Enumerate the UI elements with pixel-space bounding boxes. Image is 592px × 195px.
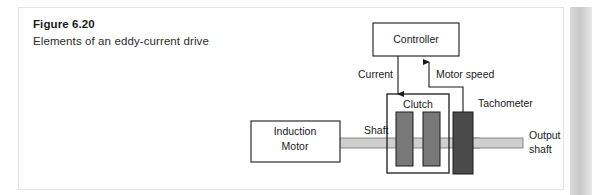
current-label: Current: [358, 68, 393, 80]
page-edge-shadow: [570, 0, 592, 195]
output-shaft-bar: [467, 138, 523, 148]
clutch-label: Clutch: [403, 98, 433, 110]
induction-motor-label-line2: Motor: [282, 140, 309, 152]
controller-label: Controller: [393, 33, 439, 45]
tachometer-label: Tachometer: [478, 97, 533, 109]
output-shaft-label-line2: shaft: [529, 143, 552, 155]
input-shaft-label: Shaft: [364, 124, 389, 136]
page-edge-top-margin: [0, 0, 592, 7]
clutch-plate-left: [396, 112, 413, 166]
figure-card: Figure 6.20 Elements of an eddy-current …: [18, 7, 564, 190]
output-shaft-label-line1: Output: [529, 129, 561, 141]
clutch-plate-right: [423, 112, 440, 166]
induction-motor-label-line1: Induction: [274, 125, 317, 137]
motor-speed-label: Motor speed: [436, 68, 495, 80]
tachometer-block: [453, 112, 473, 174]
page-root: Figure 6.20 Elements of an eddy-current …: [0, 0, 592, 195]
eddy-current-drive-diagram: Controller Current Motor speed Induction…: [19, 8, 565, 191]
